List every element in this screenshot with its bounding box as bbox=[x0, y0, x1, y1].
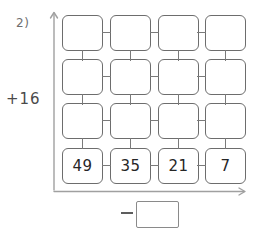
connector-v-c4r2r3 bbox=[225, 94, 226, 105]
connector-v-c2r3r4 bbox=[130, 138, 131, 149]
grid-cell-r4c1[interactable]: 49 bbox=[62, 148, 103, 184]
grid-cell-r1c1[interactable] bbox=[62, 15, 103, 51]
minus-sign-icon bbox=[121, 212, 133, 214]
connector-h-r1c3c4 bbox=[197, 32, 206, 33]
grid-cell-r4c4[interactable]: 7 bbox=[205, 148, 246, 184]
grid-cell-r3c1[interactable] bbox=[62, 103, 103, 139]
grid-cell-r4c2[interactable]: 35 bbox=[110, 148, 151, 184]
connector-h-r2c2c3 bbox=[150, 76, 159, 77]
connector-h-r1c2c3 bbox=[150, 32, 159, 33]
connector-h-r4c2c3 bbox=[150, 165, 159, 166]
grid-cell-r3c4[interactable] bbox=[205, 103, 246, 139]
grid-cell-r2c3[interactable] bbox=[158, 59, 199, 95]
connector-v-c1r1r2 bbox=[82, 50, 83, 61]
grid-cell-r2c2[interactable] bbox=[110, 59, 151, 95]
connector-v-c3r2r3 bbox=[178, 94, 179, 105]
grid-cell-r1c2[interactable] bbox=[110, 15, 151, 51]
grid-cell-r1c3[interactable] bbox=[158, 15, 199, 51]
connector-v-c1r2r3 bbox=[82, 94, 83, 105]
connector-v-c3r3r4 bbox=[178, 138, 179, 149]
grid-cell-value: 35 bbox=[120, 157, 140, 175]
connector-h-r2c1c2 bbox=[102, 76, 111, 77]
y-axis-label: +16 bbox=[6, 87, 52, 111]
connector-h-r3c2c3 bbox=[150, 120, 159, 121]
grid-cell-value: 21 bbox=[168, 157, 188, 175]
grid-cell-value: 7 bbox=[220, 157, 230, 175]
grid-cell-value: 49 bbox=[72, 157, 92, 175]
problem-number-label: 2) bbox=[16, 12, 46, 34]
answer-input-box[interactable] bbox=[136, 201, 179, 228]
connector-v-c3r1r2 bbox=[178, 50, 179, 61]
grid-cell-r2c4[interactable] bbox=[205, 59, 246, 95]
grid-cell-r2c1[interactable] bbox=[62, 59, 103, 95]
arrow-right-icon bbox=[239, 188, 245, 195]
connector-v-c1r3r4 bbox=[82, 138, 83, 149]
grid-cell-r4c3[interactable]: 21 bbox=[158, 148, 199, 184]
grid-cell-r3c2[interactable] bbox=[110, 103, 151, 139]
grid-cell-r3c3[interactable] bbox=[158, 103, 199, 139]
number-grid: 49 35 21 7 bbox=[62, 15, 246, 185]
connector-h-r1c1c2 bbox=[102, 32, 111, 33]
arrow-up-icon bbox=[51, 13, 58, 19]
connector-h-r4c3c4 bbox=[197, 165, 206, 166]
connector-v-c4r3r4 bbox=[225, 138, 226, 149]
worksheet-canvas: 2) +16 49 35 21 7 bbox=[0, 0, 257, 244]
connector-v-c4r1r2 bbox=[225, 50, 226, 61]
connector-h-r4c1c2 bbox=[102, 165, 111, 166]
grid-cell-r1c4[interactable] bbox=[205, 15, 246, 51]
connector-v-c2r2r3 bbox=[130, 94, 131, 105]
connector-h-r2c3c4 bbox=[197, 76, 206, 77]
connector-h-r3c1c2 bbox=[102, 120, 111, 121]
connector-v-c2r1r2 bbox=[130, 50, 131, 61]
connector-h-r3c3c4 bbox=[197, 120, 206, 121]
bottom-expression bbox=[118, 200, 182, 230]
